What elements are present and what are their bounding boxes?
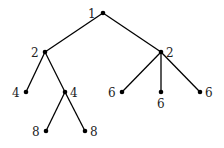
node-label: 8 xyxy=(90,125,98,139)
tree-edge xyxy=(103,13,161,52)
tree-node xyxy=(44,129,49,134)
tree-node xyxy=(120,90,125,95)
node-label: 1 xyxy=(88,7,96,21)
tree-node xyxy=(63,90,68,95)
node-label: 6 xyxy=(205,86,213,100)
tree-node xyxy=(198,90,203,95)
tree-edges xyxy=(26,13,200,131)
tree-edge xyxy=(45,52,65,92)
tree-nodes xyxy=(24,11,203,134)
node-label: 6 xyxy=(157,97,165,111)
tree-edge xyxy=(122,52,161,92)
tree-node xyxy=(24,90,29,95)
tree-labels: 1224466688 xyxy=(12,7,213,139)
tree-node xyxy=(159,50,164,55)
node-label: 6 xyxy=(108,86,116,100)
tree-diagram: 1224466688 xyxy=(0,0,224,148)
tree-node xyxy=(101,11,106,16)
node-label: 2 xyxy=(166,46,174,60)
tree-node xyxy=(83,129,88,134)
tree-node xyxy=(159,90,164,95)
tree-edge xyxy=(46,92,65,131)
tree-node xyxy=(43,50,48,55)
node-label: 2 xyxy=(31,46,39,60)
node-label: 4 xyxy=(12,86,20,100)
node-label: 4 xyxy=(70,86,78,100)
node-label: 8 xyxy=(32,125,40,139)
